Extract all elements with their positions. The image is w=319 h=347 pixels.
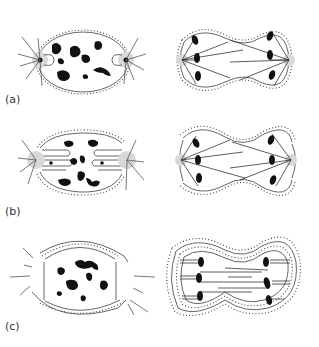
- panel-b: (b): [5, 126, 297, 218]
- panel-label-b: (b): [5, 205, 21, 218]
- panel-label-c: (c): [5, 320, 20, 333]
- panel-b-prophase-cell: [18, 130, 144, 195]
- panel-a-anaphase-cell: [176, 30, 295, 91]
- mitosis-diagram: (a): [0, 0, 319, 347]
- aster-left: [18, 140, 36, 184]
- er-cisterna-top-1: [45, 248, 115, 260]
- panel-label-a: (a): [5, 93, 20, 106]
- nuclear-envelope: [38, 32, 128, 92]
- envelope-fragment-top-inner: [183, 130, 292, 143]
- aster-right: [128, 276, 155, 315]
- kinetochore-fibers-left: [180, 260, 198, 299]
- chromosomes: [49, 140, 104, 187]
- fenestra-folds-right: [92, 150, 122, 170]
- er-middle: [171, 242, 296, 312]
- panel-a-prophase-cell: [18, 30, 146, 94]
- aster-left: [10, 248, 33, 295]
- chromosomes: [196, 257, 273, 306]
- panel-c-prophase-cell: [10, 241, 155, 315]
- chromosomes: [191, 134, 277, 185]
- chromosomes: [190, 30, 276, 81]
- panel-b-anaphase-cell: [175, 126, 297, 195]
- chromosomes: [52, 41, 111, 81]
- aster-left: [18, 37, 42, 86]
- fenestra-folds-left: [42, 150, 72, 170]
- panel-c: (c): [5, 237, 300, 333]
- panel-a: (a): [5, 30, 295, 106]
- interpolar-microtubules: [200, 268, 270, 292]
- aster-right: [124, 38, 146, 84]
- panel-c-anaphase-cell: [167, 237, 301, 315]
- er-cisterna-bottom-3: [32, 292, 126, 314]
- chromosomes: [57, 260, 108, 301]
- envelope-fragment-bottom: [180, 182, 295, 195]
- envelope-fragment-top: [180, 126, 295, 140]
- nuclear-envelope-outer: [36, 30, 130, 94]
